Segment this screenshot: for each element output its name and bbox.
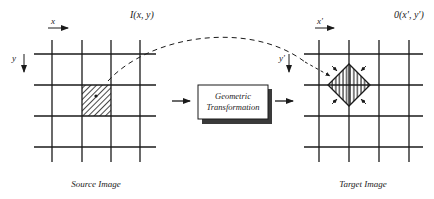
target-y-axis-label: y': [278, 53, 286, 63]
corner-arrow-br-icon: [361, 99, 366, 104]
source-image: I(x, y) x y Source Image: [11, 9, 156, 189]
corner-arrow-tr-icon: [361, 66, 366, 71]
target-image: 0(x', y') x' y' Target Image: [278, 9, 424, 189]
corner-arrow-tl-icon: [332, 66, 337, 71]
corner-arrow-bl-icon: [332, 99, 337, 104]
transform-label-line1: Geometric: [215, 91, 251, 101]
source-function-label: I(x, y): [129, 9, 155, 21]
transformation-block: Geometric Transformation: [172, 85, 293, 124]
source-x-axis-label: x: [50, 16, 55, 26]
source-y-axis-label: y: [11, 53, 16, 63]
target-diamond-pixel: [328, 64, 370, 106]
mapping-arrow-icon: [305, 62, 330, 76]
target-x-axis-label: x': [316, 16, 324, 26]
geometric-transformation-diagram: I(x, y) x y Source Image Geometric Trans…: [0, 0, 434, 199]
mapping-curve: [108, 37, 305, 81]
source-caption: Source Image: [71, 179, 120, 189]
target-function-label: 0(x', y'): [394, 9, 424, 21]
source-point: [94, 94, 97, 97]
transform-label-line2: Transformation: [207, 102, 260, 112]
target-caption: Target Image: [339, 179, 387, 189]
source-hatched-pixel: [82, 85, 111, 116]
